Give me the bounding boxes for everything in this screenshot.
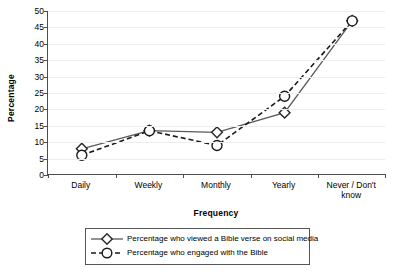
- y-axis-tick-labels: 05101520253035404550: [22, 11, 44, 175]
- gridline: [48, 126, 385, 127]
- y-axis-title: Percentage: [0, 0, 22, 195]
- y-tick-label: 10: [22, 138, 44, 146]
- x-tick-mark: [116, 174, 117, 178]
- y-tick-label: 20: [22, 105, 44, 113]
- y-tick-label: 50: [22, 7, 44, 15]
- gridline: [48, 11, 385, 12]
- y-tick-label: 25: [22, 89, 44, 97]
- circle-marker: [102, 248, 112, 258]
- gridline: [48, 27, 385, 28]
- y-tick-label: 5: [22, 155, 44, 163]
- gridline: [48, 60, 385, 61]
- circle-marker: [144, 126, 154, 136]
- y-tick-mark: [44, 27, 48, 28]
- y-tick-mark: [44, 77, 48, 78]
- y-tick-label: 30: [22, 73, 44, 81]
- gridline: [48, 44, 385, 45]
- gridline: [48, 109, 385, 110]
- circle-marker: [347, 16, 357, 26]
- y-tick-label: 45: [22, 23, 44, 31]
- legend-item[interactable]: Percentage who viewed a Bible verse on s…: [90, 232, 305, 246]
- legend-label: Percentage who viewed a Bible verse on s…: [127, 234, 318, 244]
- y-tick-mark: [44, 109, 48, 110]
- y-tick-label: 35: [22, 56, 44, 64]
- diamond-marker: [102, 234, 112, 244]
- y-tick-mark: [44, 159, 48, 160]
- x-tick-label: Daily: [47, 180, 115, 190]
- legend-item[interactable]: Percentage who engaged with the Bible: [90, 246, 305, 260]
- y-tick-label: 40: [22, 40, 44, 48]
- gridline: [48, 142, 385, 143]
- chart-legend: Percentage who viewed a Bible verse on s…: [85, 228, 310, 265]
- y-axis-title-text: Percentage: [6, 74, 16, 122]
- y-tick-mark: [44, 60, 48, 61]
- x-tick-label: Weekly: [115, 180, 183, 190]
- x-tick-mark: [318, 174, 319, 178]
- x-axis-tick-labels: DailyWeeklyMonthlyYearlyNever / Don't kn…: [47, 180, 385, 208]
- plot-area: [47, 11, 385, 175]
- x-tick-mark: [385, 174, 386, 178]
- x-tick-mark: [183, 174, 184, 178]
- legend-label: Percentage who engaged with the Bible: [127, 248, 268, 258]
- y-tick-mark: [44, 44, 48, 45]
- diamond-marker: [212, 127, 223, 138]
- x-tick-label: Yearly: [250, 180, 318, 190]
- legend-swatch: [90, 233, 124, 245]
- y-tick-label: 0: [22, 171, 44, 179]
- gridline: [48, 77, 385, 78]
- x-tick-mark: [48, 174, 49, 178]
- y-tick-mark: [44, 142, 48, 143]
- y-tick-label: 15: [22, 122, 44, 130]
- x-tick-mark: [251, 174, 252, 178]
- x-axis-title-text: Frequency: [194, 208, 239, 218]
- gridline: [48, 93, 385, 94]
- x-tick-label: Monthly: [182, 180, 250, 190]
- y-tick-mark: [44, 93, 48, 94]
- gridline: [48, 159, 385, 160]
- line-chart: Percentage 05101520253035404550 DailyWee…: [0, 0, 395, 278]
- x-tick-label: Never / Don't know: [317, 180, 385, 200]
- y-tick-mark: [44, 126, 48, 127]
- legend-swatch: [90, 247, 124, 259]
- x-axis-title: Frequency: [47, 208, 385, 218]
- y-tick-mark: [44, 11, 48, 12]
